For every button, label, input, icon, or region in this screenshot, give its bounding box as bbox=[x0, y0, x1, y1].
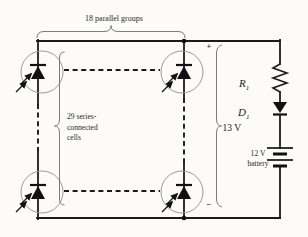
diode-subscript: 1 bbox=[246, 113, 250, 121]
solar-cell-bottom-left bbox=[16, 171, 63, 213]
diode-d1-triangle-icon bbox=[273, 102, 287, 113]
array-voltage-label: 13 V bbox=[223, 123, 242, 133]
solar-cell-bottom-right bbox=[161, 171, 203, 213]
photodiode-triangle-icon bbox=[31, 186, 45, 199]
series-cells-line1: 29 series- bbox=[67, 112, 97, 121]
photodiode-triangle-icon bbox=[31, 66, 45, 79]
battery-symbol-icon bbox=[267, 148, 293, 166]
diode-letter: D bbox=[237, 106, 246, 118]
battery-word: battery bbox=[247, 159, 268, 168]
diode-d1-label: D1 bbox=[237, 106, 249, 121]
parallel-groups-label: 18 parallel groups bbox=[85, 14, 143, 23]
charger-branch bbox=[267, 40, 293, 218]
resistor-r1-label: R1 bbox=[238, 77, 249, 92]
solar-cell-top-left bbox=[16, 51, 63, 93]
plus-sign: + bbox=[207, 41, 212, 51]
series-cells-label: 29 series- connected cells bbox=[67, 112, 98, 142]
solar-cell-top-right bbox=[161, 51, 203, 93]
junction-dot-bottom bbox=[182, 216, 187, 221]
minus-sign: − bbox=[207, 199, 212, 209]
cell-circle bbox=[21, 171, 63, 213]
battery-voltage: 12 V bbox=[251, 149, 266, 158]
photodiode-triangle-icon bbox=[177, 186, 191, 199]
cell-circle bbox=[21, 51, 63, 93]
resistor-r1-zigzag-icon bbox=[273, 64, 287, 92]
photodiode-triangle-icon bbox=[177, 66, 191, 79]
series-cells-line3: cells bbox=[67, 133, 81, 142]
junction-dot-top bbox=[182, 39, 187, 44]
resistor-subscript: 1 bbox=[246, 84, 250, 92]
circuit-svg: 18 parallel groups 29 series- connected … bbox=[0, 0, 308, 237]
circuit-figure: 18 parallel groups 29 series- connected … bbox=[0, 0, 308, 237]
series-cells-line2: connected bbox=[67, 123, 98, 132]
battery-label: 12 V battery bbox=[247, 149, 268, 168]
brace-parallel-groups bbox=[37, 26, 185, 39]
brace-13v bbox=[217, 45, 223, 207]
